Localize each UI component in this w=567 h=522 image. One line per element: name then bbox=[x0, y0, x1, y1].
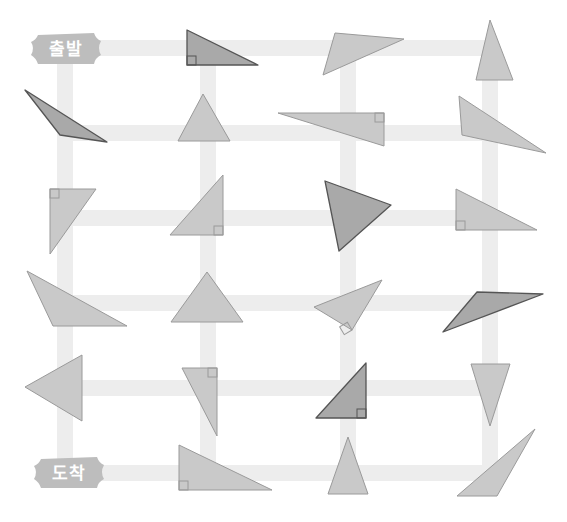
triangle-r2c1[interactable] bbox=[170, 175, 223, 235]
start-label-text: 출발 bbox=[30, 33, 102, 65]
triangle-shape bbox=[25, 355, 82, 421]
path-col-0 bbox=[57, 40, 73, 481]
triangle-set bbox=[25, 20, 546, 496]
triangle-r4c0[interactable] bbox=[25, 355, 82, 421]
triangle-shape bbox=[178, 94, 230, 141]
triangle-r1c1[interactable] bbox=[178, 94, 230, 141]
path-grid bbox=[57, 40, 498, 481]
triangle-r1c3[interactable] bbox=[459, 96, 546, 153]
path-row-4 bbox=[57, 380, 498, 396]
path-row-3 bbox=[57, 295, 498, 311]
triangle-shape bbox=[182, 368, 217, 436]
path-maze-board: 출발 도착 bbox=[0, 0, 567, 522]
end-label-text: 도착 bbox=[33, 457, 105, 489]
maze-canvas bbox=[0, 0, 567, 522]
end-label: 도착 bbox=[33, 457, 105, 489]
triangle-r4c1[interactable] bbox=[182, 368, 217, 436]
path-row-5 bbox=[57, 465, 498, 481]
path-row-1 bbox=[57, 125, 498, 141]
path-row-0 bbox=[57, 40, 498, 56]
triangle-shape bbox=[459, 96, 546, 153]
start-label: 출발 bbox=[30, 33, 102, 65]
path-row-2 bbox=[57, 210, 498, 226]
